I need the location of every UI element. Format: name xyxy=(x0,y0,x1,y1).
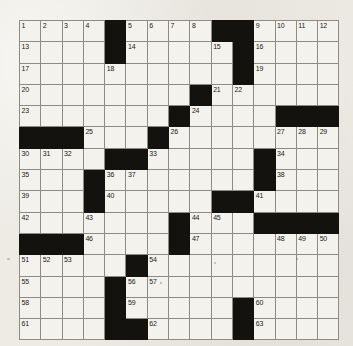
crossword-cell[interactable]: 61 xyxy=(20,319,41,340)
crossword-cell[interactable] xyxy=(254,233,275,254)
crossword-cell[interactable]: 6 xyxy=(147,21,168,42)
crossword-cell[interactable]: 63 xyxy=(254,319,275,340)
crossword-cell[interactable] xyxy=(318,319,339,340)
crossword-cell[interactable]: 57 xyxy=(147,276,168,297)
crossword-cell[interactable]: 30 xyxy=(20,148,41,169)
crossword-cell[interactable]: 10 xyxy=(275,21,296,42)
crossword-cell[interactable] xyxy=(318,191,339,212)
crossword-cell[interactable] xyxy=(275,319,296,340)
crossword-cell[interactable] xyxy=(275,297,296,318)
crossword-cell[interactable]: 9 xyxy=(254,21,275,42)
crossword-cell[interactable]: 37 xyxy=(126,170,147,191)
crossword-cell[interactable] xyxy=(211,63,232,84)
crossword-cell[interactable] xyxy=(83,319,104,340)
crossword-cell[interactable] xyxy=(190,255,211,276)
crossword-cell[interactable] xyxy=(190,319,211,340)
crossword-cell[interactable] xyxy=(126,212,147,233)
crossword-cell[interactable]: 60 xyxy=(254,297,275,318)
crossword-cell[interactable] xyxy=(169,255,190,276)
crossword-cell[interactable] xyxy=(147,63,168,84)
crossword-cell[interactable] xyxy=(296,63,317,84)
crossword-cell[interactable]: 28 xyxy=(296,127,317,148)
crossword-cell[interactable] xyxy=(62,212,83,233)
crossword-cell[interactable]: 19 xyxy=(254,63,275,84)
crossword-cell[interactable]: 53 xyxy=(62,255,83,276)
crossword-cell[interactable] xyxy=(147,42,168,63)
crossword-cell[interactable] xyxy=(232,148,253,169)
crossword-cell[interactable] xyxy=(318,63,339,84)
crossword-cell[interactable] xyxy=(190,297,211,318)
crossword-cell[interactable]: 18 xyxy=(105,63,126,84)
crossword-cell[interactable] xyxy=(296,319,317,340)
crossword-cell[interactable] xyxy=(169,84,190,105)
crossword-cell[interactable] xyxy=(41,170,62,191)
crossword-cell[interactable] xyxy=(83,276,104,297)
crossword-cell[interactable] xyxy=(169,148,190,169)
crossword-cell[interactable] xyxy=(169,319,190,340)
crossword-cell[interactable] xyxy=(275,63,296,84)
crossword-cell[interactable] xyxy=(211,319,232,340)
crossword-cell[interactable] xyxy=(41,297,62,318)
crossword-cell[interactable]: 48 xyxy=(275,233,296,254)
crossword-cell[interactable]: 20 xyxy=(20,84,41,105)
crossword-cell[interactable]: 58 xyxy=(20,297,41,318)
crossword-cell[interactable] xyxy=(169,63,190,84)
crossword-cell[interactable] xyxy=(232,106,253,127)
crossword-cell[interactable] xyxy=(105,84,126,105)
crossword-cell[interactable] xyxy=(318,170,339,191)
crossword-cell[interactable] xyxy=(62,319,83,340)
crossword-cell[interactable]: 3 xyxy=(62,21,83,42)
crossword-cell[interactable] xyxy=(318,42,339,63)
crossword-cell[interactable] xyxy=(83,42,104,63)
crossword-cell[interactable] xyxy=(83,84,104,105)
crossword-cell[interactable] xyxy=(169,42,190,63)
crossword-cell[interactable]: 55 xyxy=(20,276,41,297)
crossword-grid-body[interactable]: 1234567891011121314151617181920212223242… xyxy=(20,21,339,340)
crossword-cell[interactable] xyxy=(296,148,317,169)
crossword-cell[interactable] xyxy=(232,212,253,233)
crossword-cell[interactable] xyxy=(190,63,211,84)
crossword-cell[interactable]: 34 xyxy=(275,148,296,169)
crossword-cell[interactable] xyxy=(211,233,232,254)
crossword-cell[interactable]: 21 xyxy=(211,84,232,105)
crossword-cell[interactable] xyxy=(83,297,104,318)
crossword-cell[interactable] xyxy=(169,170,190,191)
crossword-cell[interactable]: 41 xyxy=(254,191,275,212)
crossword-cell[interactable]: 15 xyxy=(211,42,232,63)
crossword-cell[interactable] xyxy=(41,106,62,127)
crossword-cell[interactable]: 42 xyxy=(20,212,41,233)
crossword-cell[interactable] xyxy=(169,276,190,297)
crossword-cell[interactable] xyxy=(232,127,253,148)
crossword-cell[interactable] xyxy=(190,276,211,297)
crossword-cell[interactable] xyxy=(275,276,296,297)
crossword-cell[interactable] xyxy=(254,84,275,105)
crossword-cell[interactable]: 52 xyxy=(41,255,62,276)
crossword-cell[interactable] xyxy=(83,148,104,169)
crossword-cell[interactable]: 50 xyxy=(318,233,339,254)
crossword-cell[interactable]: 7 xyxy=(169,21,190,42)
crossword-cell[interactable] xyxy=(275,42,296,63)
crossword-cell[interactable] xyxy=(318,84,339,105)
crossword-cell[interactable] xyxy=(126,191,147,212)
crossword-cell[interactable]: 36 xyxy=(105,170,126,191)
crossword-cell[interactable] xyxy=(41,84,62,105)
crossword-cell[interactable] xyxy=(169,297,190,318)
crossword-cell[interactable] xyxy=(232,255,253,276)
crossword-cell[interactable] xyxy=(41,276,62,297)
crossword-cell[interactable] xyxy=(126,106,147,127)
crossword-cell[interactable] xyxy=(232,170,253,191)
crossword-cell[interactable] xyxy=(83,106,104,127)
crossword-cell[interactable]: 11 xyxy=(296,21,317,42)
crossword-cell[interactable] xyxy=(318,297,339,318)
crossword-cell[interactable] xyxy=(254,255,275,276)
crossword-cell[interactable] xyxy=(190,127,211,148)
crossword-cell[interactable] xyxy=(211,127,232,148)
crossword-cell[interactable] xyxy=(211,255,232,276)
crossword-cell[interactable] xyxy=(296,170,317,191)
crossword-cell[interactable]: 17 xyxy=(20,63,41,84)
crossword-cell[interactable] xyxy=(105,106,126,127)
crossword-cell[interactable]: 8 xyxy=(190,21,211,42)
crossword-cell[interactable] xyxy=(211,170,232,191)
crossword-cell[interactable] xyxy=(169,191,190,212)
crossword-cell[interactable] xyxy=(318,255,339,276)
